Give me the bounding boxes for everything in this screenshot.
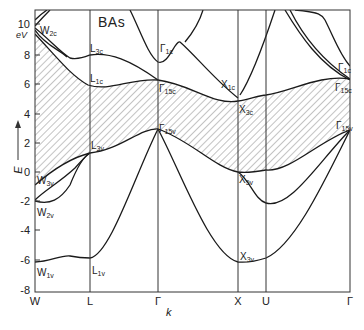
k-point-U: U — [258, 296, 274, 307]
state-label-X3c: X3c — [239, 105, 253, 118]
state-label-X5v: X5v — [239, 175, 253, 188]
state-label-G15c: Γ15c — [159, 84, 176, 97]
k-point-gamma: Γ — [150, 296, 166, 307]
state-label-L1v: L1v — [92, 266, 105, 279]
state-label-L3c: L3c — [90, 44, 103, 57]
k-point-L: L — [82, 296, 98, 307]
k-point-W: W — [27, 296, 43, 307]
y-tick: 8 — [8, 50, 30, 61]
x-axis-label: k — [166, 306, 172, 318]
state-label-W3v: W3v — [37, 176, 54, 189]
state-label-W2v: W2v — [37, 208, 54, 221]
y-tick: -2 — [8, 196, 30, 207]
y-tick: 0 — [8, 167, 30, 178]
y-tick: 10 — [8, 19, 30, 30]
state-label-G1c: Γ1c — [160, 44, 173, 57]
state-label-G15v-right: Γ15v — [336, 121, 353, 134]
band-cond-xg-1 — [240, 10, 275, 95]
state-label-X1c: X1c — [221, 80, 235, 93]
k-point-X: X — [230, 296, 246, 307]
y-tick: 2 — [8, 138, 30, 149]
band-val-low — [35, 256, 90, 262]
state-label-G15c-right: Γ15c — [335, 83, 352, 96]
state-label-W1v: W1v — [37, 268, 54, 281]
state-label-G15v: Γ15v — [159, 124, 176, 137]
state-label-L1c: L1c — [90, 74, 103, 87]
state-label-L3v: L3v — [91, 141, 104, 154]
hatched-gap-region — [35, 34, 350, 185]
k-point-gamma-end: Γ — [342, 296, 358, 307]
y-tick: -8 — [8, 285, 30, 296]
y-tick: 6 — [8, 79, 30, 90]
y-tick: -6 — [8, 255, 30, 266]
y-tick: -4 — [8, 225, 30, 236]
band-structure-plot — [0, 0, 364, 330]
state-label-W2c: W2c — [40, 26, 57, 39]
state-label-G1c-right: Γ1c — [338, 63, 351, 76]
y-tick: 4 — [8, 109, 30, 120]
chart-title: BAs — [98, 14, 125, 30]
state-label-X3v: X3v — [240, 252, 254, 265]
y-unit: eV — [16, 30, 27, 40]
band-cond-lg — [185, 10, 203, 42]
